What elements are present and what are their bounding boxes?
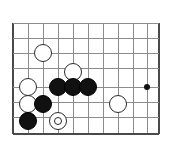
black-stone[interactable] (79, 78, 97, 96)
black-stone[interactable] (34, 95, 52, 113)
board-edge-bottom (13, 133, 159, 135)
grid-line-horizontal-0 (13, 23, 159, 24)
white-stone[interactable] (49, 112, 67, 130)
star-point-icon (144, 84, 150, 90)
white-stone[interactable] (19, 78, 37, 96)
go-board[interactable] (0, 0, 170, 142)
go-diagram-screenshot (0, 0, 170, 142)
stone-marker-circle-icon (54, 117, 62, 125)
grid-line-horizontal-1 (13, 38, 159, 39)
white-stone[interactable] (109, 95, 127, 113)
white-stone[interactable] (34, 44, 52, 62)
grid-line-horizontal-3 (13, 68, 159, 69)
black-stone[interactable] (19, 112, 37, 130)
